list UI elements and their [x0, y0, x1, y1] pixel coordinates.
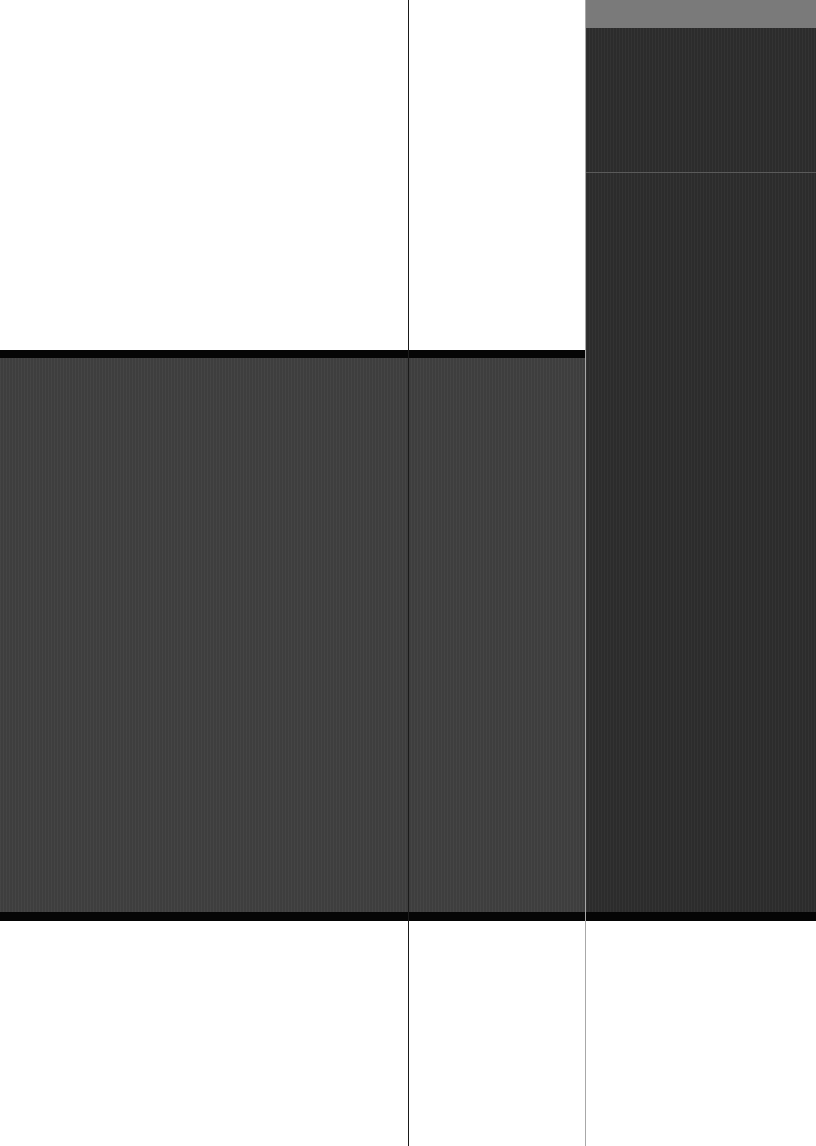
center-dark-band — [0, 357, 586, 913]
right-dark-column — [586, 28, 816, 913]
vertical-line-left — [408, 0, 409, 1146]
center-band-top-border — [0, 350, 586, 358]
top-right-gray-band — [586, 0, 816, 28]
vertical-line-right — [585, 0, 586, 1146]
right-column-hairline — [586, 172, 816, 173]
